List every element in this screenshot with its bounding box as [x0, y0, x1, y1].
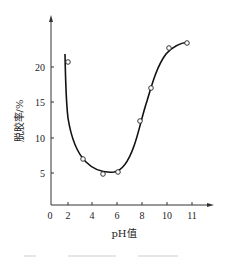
- chart: 20 15 10 5 0 2 4 6 8 10 11 pH值 脱胶率/%: [0, 0, 228, 258]
- data-point: [81, 157, 86, 162]
- y-axis-arrow-icon: [49, 15, 53, 22]
- data-point: [66, 60, 71, 65]
- x-tick-label: 0: [48, 210, 53, 221]
- x-tick-label: 8: [140, 210, 145, 221]
- data-point: [149, 86, 154, 91]
- x-tick-label: 6: [115, 210, 120, 221]
- x-tick-label: 10: [162, 210, 172, 221]
- x-axis-title: pH值: [111, 227, 136, 239]
- y-tick-label: 20: [35, 62, 45, 73]
- y-tick-label: 5: [40, 168, 45, 179]
- y-axis-title: 脱胶率/%: [13, 100, 25, 143]
- caption-ghost: [24, 255, 178, 257]
- fitted-curve: [65, 42, 188, 172]
- x-tick-label: 11: [187, 210, 197, 221]
- y-tick-label: 10: [35, 133, 45, 144]
- data-point: [116, 170, 121, 175]
- data-point: [101, 172, 106, 177]
- x-axis-arrow-icon: [207, 203, 214, 207]
- data-point: [167, 46, 172, 51]
- data-point: [185, 41, 190, 46]
- y-tick-label: 15: [35, 97, 45, 108]
- x-tick-label: 2: [66, 210, 71, 221]
- data-point: [138, 119, 143, 124]
- data-points: [66, 41, 190, 177]
- x-tick-label: 4: [90, 210, 95, 221]
